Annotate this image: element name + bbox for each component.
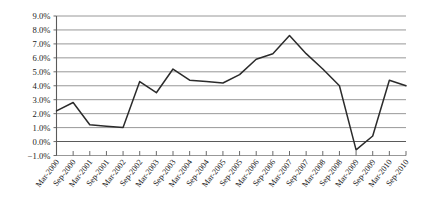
y-axis-tick-label: 4.0% — [33, 81, 51, 91]
y-axis-tick-label: 7.0% — [33, 39, 51, 49]
y-axis-tick-label: 3.0% — [33, 95, 51, 105]
y-axis-tick-labels: 9.0%8.0%7.0%6.0%5.0%4.0%3.0%2.0%1.0%0.0%… — [28, 11, 51, 161]
y-axis-tick-label: −1.0% — [28, 151, 51, 161]
data-series — [57, 36, 407, 150]
y-axis-tick-label: 2.0% — [33, 109, 51, 119]
y-axis-tick-label: 8.0% — [33, 25, 51, 35]
chart-canvas: 9.0%8.0%7.0%6.0%5.0%4.0%3.0%2.0%1.0%0.0%… — [0, 0, 425, 210]
y-axis-tick-label: 9.0% — [33, 11, 51, 21]
line-chart: 9.0%8.0%7.0%6.0%5.0%4.0%3.0%2.0%1.0%0.0%… — [0, 0, 425, 210]
y-axis-tick-label: 6.0% — [33, 53, 51, 63]
x-axis-tick-marks — [57, 151, 407, 156]
y-axis-tick-label: 0.0% — [33, 137, 51, 147]
y-axis-tick-label: 1.0% — [33, 123, 51, 133]
x-axis-tick-labels: Mar-2000Sep-2000Mar-2001Sep-2001Mar-2002… — [34, 158, 411, 189]
y-axis-tick-label: 5.0% — [33, 67, 51, 77]
series-line — [57, 36, 407, 150]
gridlines — [54, 16, 407, 156]
